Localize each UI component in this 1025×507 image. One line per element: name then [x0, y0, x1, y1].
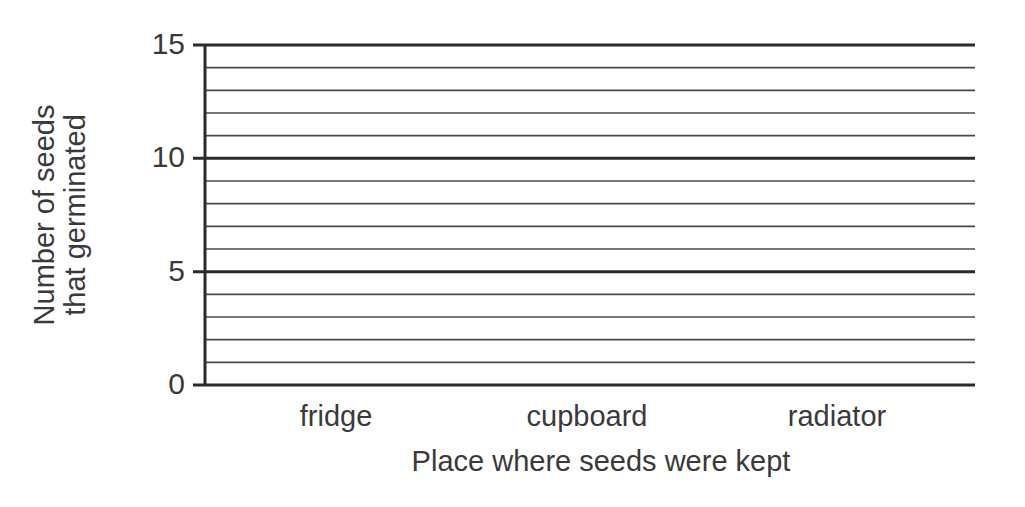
x-category-cupboard: cupboard [527, 402, 648, 431]
y-tick-label: 5 [135, 256, 185, 286]
y-axis-title: Number of seeds that germinated [29, 105, 92, 326]
bar-chart-blank-grid: 051015 Number of seeds that germinated f… [0, 0, 1025, 507]
y-tick-label: 0 [135, 369, 185, 399]
y-tick-label: 10 [135, 142, 185, 172]
y-axis-title-line-1: Number of seeds [29, 105, 60, 326]
y-tick-label: 15 [135, 29, 185, 59]
x-category-radiator: radiator [788, 402, 886, 431]
x-category-fridge: fridge [300, 402, 373, 431]
x-axis-title: Place where seeds were kept [412, 447, 791, 476]
y-axis-title-line-2: that germinated [60, 105, 91, 326]
